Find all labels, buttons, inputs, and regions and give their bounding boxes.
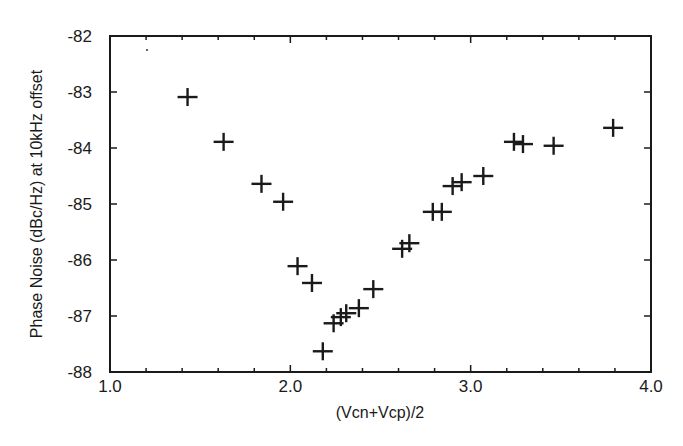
x-tick-label: 2.0 [279, 377, 303, 396]
x-axis-title: (Vcn+Vcp)/2 [336, 404, 425, 421]
x-tick-labels: 1.02.03.04.0 [98, 377, 663, 396]
plus-marker [273, 193, 293, 211]
data-markers [178, 88, 624, 360]
plus-marker [513, 135, 533, 153]
plus-marker [473, 167, 493, 185]
plus-marker [302, 274, 322, 292]
plus-marker [178, 88, 198, 106]
axis-ticks [110, 36, 651, 372]
y-tick-label: -84 [67, 139, 92, 158]
y-tick-label: -83 [67, 83, 92, 102]
plus-marker [504, 133, 524, 151]
x-tick-label: 4.0 [639, 377, 663, 396]
stray-dot [146, 49, 148, 51]
plot-frame [110, 36, 651, 372]
scatter-plot: -82-83-84-85-86-87-88 1.02.03.04.0 (Vcn+… [0, 0, 683, 446]
plus-marker [214, 133, 234, 151]
plus-marker [544, 137, 564, 155]
x-tick-label: 3.0 [459, 377, 483, 396]
y-tick-label: -86 [67, 251, 92, 270]
plus-marker [443, 177, 463, 195]
plus-marker [313, 342, 333, 360]
plus-marker [432, 203, 452, 221]
plus-marker [363, 280, 383, 298]
y-tick-label: -87 [67, 307, 92, 326]
plus-marker [288, 257, 308, 275]
plus-marker [336, 304, 356, 322]
plus-marker [452, 173, 472, 191]
y-tick-labels: -82-83-84-85-86-87-88 [67, 27, 92, 382]
y-tick-label: -85 [67, 195, 92, 214]
y-tick-label: -82 [67, 27, 92, 46]
plus-marker [251, 175, 271, 193]
y-tick-label: -88 [67, 363, 92, 382]
plus-marker [603, 119, 623, 137]
x-tick-label: 1.0 [98, 377, 122, 396]
plus-marker [349, 299, 369, 317]
y-axis-title: Phase Noise (dBc/Hz) at 10kHz offset [28, 69, 45, 338]
